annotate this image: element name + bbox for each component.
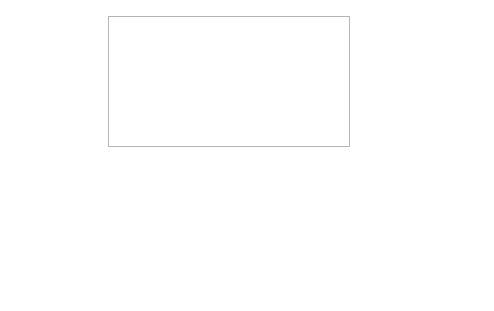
diagram-edges — [0, 0, 494, 311]
